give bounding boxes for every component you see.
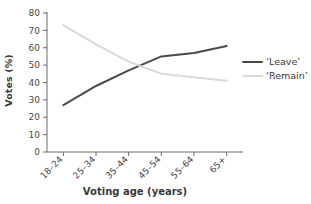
- series-line-leave: [63, 46, 226, 105]
- line-chart: Votes (%) 01020304050607080 18–2425–3435…: [0, 0, 311, 204]
- x-tick-label: 25–34: [71, 154, 98, 181]
- x-tick-label: 55–64: [169, 154, 196, 181]
- x-tick-label: 35–44: [104, 154, 131, 181]
- plot-area: 01020304050607080 18–2425–3435–4445–5455…: [0, 0, 311, 204]
- y-tick-label: 10: [29, 130, 41, 140]
- legend: ‘Leave’‘Remain’: [243, 56, 308, 81]
- x-tick-label: 18–24: [38, 154, 65, 181]
- y-tick-label: 60: [29, 43, 41, 53]
- y-tick-label: 30: [29, 95, 41, 105]
- y-tick-label: 70: [29, 26, 41, 36]
- legend-label-remain: ‘Remain’: [266, 70, 308, 81]
- y-tick-label: 20: [29, 112, 41, 122]
- x-tick-label: 45–54: [136, 154, 163, 181]
- y-tick-label: 50: [29, 60, 41, 70]
- y-tick-label: 40: [29, 78, 41, 88]
- legend-label-leave: ‘Leave’: [266, 56, 300, 67]
- y-tick-label: 80: [29, 8, 41, 18]
- series-line-remain: [63, 25, 226, 81]
- y-tick-label: 0: [34, 147, 40, 157]
- x-axis-title: Voting age (years): [30, 186, 240, 197]
- y-axis-ticks: 01020304050607080: [29, 8, 47, 157]
- x-axis-ticks: 18–2425–3435–4445–5455–6465+: [38, 152, 228, 181]
- data-series-group: [63, 25, 226, 105]
- x-tick-label: 65+: [208, 154, 229, 175]
